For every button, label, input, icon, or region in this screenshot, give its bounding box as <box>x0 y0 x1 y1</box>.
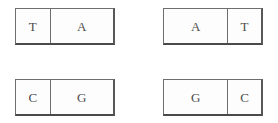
base-pair-box-top-left: T A <box>15 8 115 45</box>
base-pair-box-bottom-right: G C <box>163 79 263 116</box>
base-pair-box-bottom-left: C G <box>15 79 115 116</box>
base-pair-diagram: T A A T C G G C <box>0 0 278 123</box>
base-cell-left: T <box>16 9 50 43</box>
base-cell-right: G <box>50 80 113 114</box>
base-cell-right: T <box>227 9 261 43</box>
base-pair-box-top-right: A T <box>163 8 263 45</box>
base-cell-left: A <box>164 9 227 43</box>
base-cell-right: C <box>227 80 261 114</box>
base-cell-left: C <box>16 80 50 114</box>
base-cell-left: G <box>164 80 227 114</box>
base-cell-right: A <box>50 9 113 43</box>
